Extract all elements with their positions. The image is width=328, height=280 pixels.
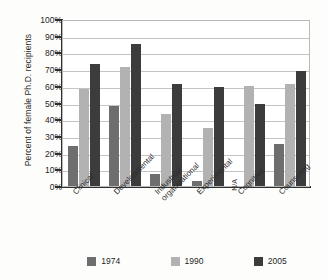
legend-label: 1990: [185, 256, 204, 266]
legend-swatch-icon: [171, 257, 180, 266]
bar: [274, 144, 284, 186]
bar: [79, 89, 89, 186]
legend-swatch-icon: [87, 257, 96, 266]
bar: [120, 67, 130, 186]
bar-group: [63, 21, 104, 186]
chart-legend: 197419902005: [62, 256, 312, 266]
bar-na: N/A: [233, 146, 243, 186]
x-axis-labels: ClinicalDevelopmentalIndustrial/organiza…: [62, 188, 310, 250]
chart-page: Percent of female Ph.D. recipients 100%9…: [0, 0, 328, 280]
legend-item[interactable]: 1990: [171, 256, 204, 266]
bar-group: N/A: [228, 21, 269, 186]
bar: [109, 106, 119, 186]
legend-label: 1974: [101, 256, 120, 266]
bar: [68, 146, 78, 186]
y-axis-labels: 100%90%80%70%60%50%40%30%20%10%0%: [0, 0, 62, 280]
bar: [90, 64, 100, 186]
legend-item[interactable]: 2005: [254, 256, 287, 266]
legend-label: 2005: [268, 256, 287, 266]
bar: [244, 86, 254, 186]
legend-item[interactable]: 1974: [87, 256, 120, 266]
bar: [285, 84, 295, 186]
legend-swatch-icon: [254, 257, 263, 266]
